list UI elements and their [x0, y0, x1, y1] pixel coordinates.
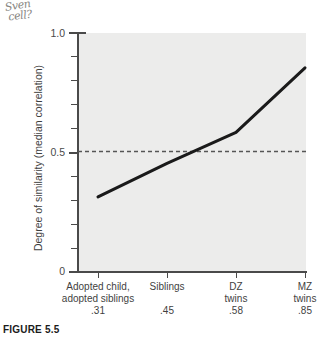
y-tick-0.8 [71, 80, 78, 81]
x-value-siblings: .45 [137, 305, 197, 316]
x-label-siblings: Siblings [127, 281, 207, 293]
y-tick-label-0.5: 0.5 [25, 147, 65, 157]
x-tick-mz-twins [305, 272, 306, 278]
x-tick-adopted [98, 272, 99, 278]
y-tick-0.6 [71, 128, 78, 129]
y-tick-label-1.0: 1.0 [25, 28, 65, 38]
x-label-mz-twins: MZ twins [277, 281, 327, 304]
y-tick-0.5 [69, 152, 78, 154]
x-value-dz-twins: .58 [206, 305, 266, 316]
y-tick-0.3 [71, 200, 78, 201]
x-value-adopted: .31 [68, 305, 128, 316]
x-tick-dz-twins [236, 272, 237, 278]
plot-area [78, 33, 306, 272]
y-tick-0.2 [71, 224, 78, 225]
x-label-dz-twins: DZ twins [206, 281, 266, 304]
x-value-mz-twins: .85 [275, 305, 327, 316]
y-tick-0.4 [71, 176, 78, 177]
y-tick-label-0: 0 [25, 266, 65, 276]
figure-5-5: Svencell? 1.0 0.5 0 Degree of similarity… [0, 0, 327, 341]
y-tick-0.1 [71, 248, 78, 249]
y-tick-0.7 [71, 104, 78, 105]
x-tick-siblings [167, 272, 168, 278]
y-tick-1.0 [69, 32, 78, 34]
y-tick-0 [69, 271, 78, 273]
axis-top-corner [77, 32, 86, 34]
figure-caption: FIGURE 5.5 [3, 324, 59, 335]
x-axis-line [77, 271, 307, 273]
y-axis-title: Degree of similarity (median correlation… [32, 58, 44, 258]
y-tick-0.9 [71, 56, 78, 57]
